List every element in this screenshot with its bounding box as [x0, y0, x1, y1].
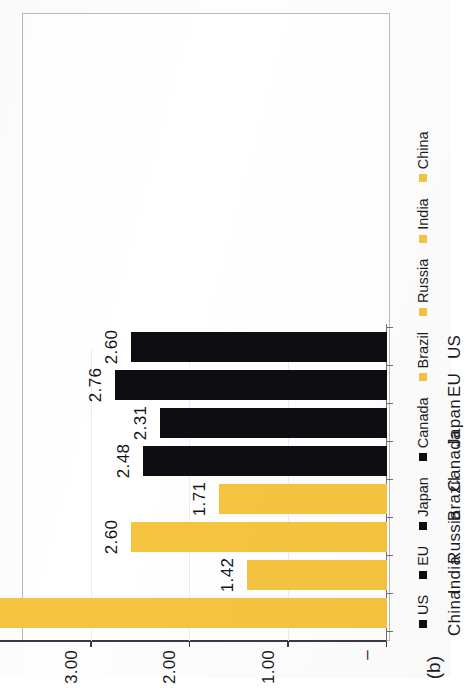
value-axis-tick	[90, 641, 91, 647]
legend-swatch-icon	[419, 235, 427, 243]
category-axis-tick	[387, 327, 393, 328]
legend-item-russia[interactable]: Russia	[415, 259, 431, 316]
bar-japan	[160, 408, 387, 438]
bar-value-label: 1.71	[190, 482, 210, 516]
bar-value-label: 1.42	[218, 558, 238, 592]
legend-label: Canada	[415, 397, 431, 448]
bar-value-label: 2.60	[102, 330, 122, 364]
category-label-us: US	[445, 335, 465, 359]
bar-russia	[131, 522, 387, 552]
legend-swatch-icon	[419, 522, 427, 530]
chart-legend: USEUJapanCanadaBrazilRussiaIndiaChina	[415, 131, 431, 628]
category-axis-tick	[387, 593, 393, 594]
legend-swatch-icon	[419, 620, 427, 628]
bar-china	[0, 598, 387, 628]
legend-item-eu[interactable]: EU	[415, 546, 431, 579]
legend-item-china[interactable]: China	[415, 131, 431, 182]
legend-swatch-icon	[419, 571, 427, 579]
legend-label: Japan	[415, 477, 431, 517]
bar-india	[247, 560, 387, 590]
category-label-japan: Japan	[445, 399, 465, 447]
category-axis-tick	[387, 403, 393, 404]
category-axis-tick	[387, 631, 393, 632]
value-axis-tick-label: 1.00	[259, 650, 279, 688]
value-axis-tick	[287, 641, 288, 647]
legend-label: US	[415, 595, 431, 615]
value-axis-tick-label: 2.00	[160, 650, 180, 688]
bar-value-label: 2.60	[102, 520, 122, 554]
bar-canada	[143, 446, 387, 476]
legend-item-us[interactable]: US	[415, 595, 431, 628]
legend-label: China	[415, 131, 431, 169]
legend-item-india[interactable]: India	[415, 198, 431, 242]
bar-value-label: 2.76	[86, 368, 106, 402]
legend-swatch-icon	[419, 453, 427, 461]
category-axis-tick	[387, 555, 393, 556]
category-label-china: China	[445, 590, 465, 636]
subfigure-label: (b)	[423, 656, 445, 679]
value-axis-tick	[189, 641, 190, 647]
category-axis-tick	[387, 479, 393, 480]
legend-item-japan[interactable]: Japan	[415, 477, 431, 530]
legend-swatch-icon	[419, 373, 427, 381]
rotated-bar-chart: –1.002.003.004.005.004.40China1.42India2…	[57, 42, 387, 642]
bar-eu	[115, 370, 387, 400]
legend-swatch-icon	[419, 174, 427, 182]
legend-swatch-icon	[419, 308, 427, 316]
bar-us	[131, 332, 387, 362]
legend-item-canada[interactable]: Canada	[415, 397, 431, 461]
value-axis-tick-label: –	[357, 650, 377, 688]
legend-label: Brazil	[415, 332, 431, 368]
bar-brazil	[219, 484, 387, 514]
figure-frame: –1.002.003.004.005.004.40China1.42India2…	[22, 13, 390, 641]
legend-label: EU	[415, 546, 431, 566]
legend-label: Russia	[415, 259, 431, 303]
bar-value-label: 2.31	[131, 406, 151, 440]
category-axis-tick	[387, 441, 393, 442]
value-axis-tick-label: 3.00	[62, 650, 82, 688]
legend-label: India	[415, 198, 431, 229]
category-axis-tick	[387, 365, 393, 366]
plot-area: –1.002.003.004.005.004.40China1.42India2…	[57, 42, 387, 642]
category-label-eu: EU	[445, 373, 465, 397]
legend-item-brazil[interactable]: Brazil	[415, 332, 431, 381]
bar-value-label: 2.48	[114, 444, 134, 478]
category-axis-tick	[387, 517, 393, 518]
value-axis-line	[0, 640, 387, 642]
